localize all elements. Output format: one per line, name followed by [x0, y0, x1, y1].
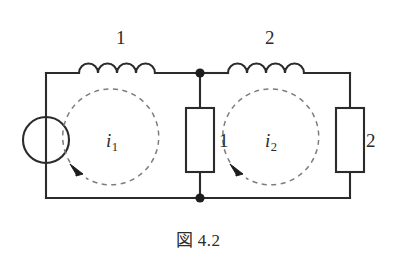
mesh-current-left-subscript: 1: [112, 140, 118, 154]
resistor-middle-label: 1: [219, 131, 229, 150]
inductor-left-coil: [79, 64, 155, 73]
figure-caption: 図 4.2: [0, 226, 396, 251]
inductor-right-coil: [228, 64, 304, 73]
mesh-loop-right-arrowhead: [230, 164, 243, 176]
resistor-right: [336, 108, 364, 172]
resistor-middle: [186, 108, 214, 172]
mesh-loop-left-arrowhead: [70, 164, 83, 176]
resistor-right-label: 2: [366, 131, 376, 150]
junction-top-dot: [195, 68, 204, 77]
inductor-left-label: 1: [116, 28, 126, 47]
mesh-current-left-label: i1: [106, 131, 118, 150]
mesh-current-right-symbol: i: [265, 130, 270, 151]
inductor-right-label: 2: [265, 28, 275, 47]
junction-bottom-dot: [195, 193, 204, 202]
mesh-current-right-subscript: 2: [271, 140, 277, 154]
circuit-figure: 1 2 1 2 i1 i2 図 4.2: [0, 0, 396, 266]
mesh-current-right-label: i2: [265, 131, 277, 150]
mesh-current-left-symbol: i: [106, 130, 111, 151]
